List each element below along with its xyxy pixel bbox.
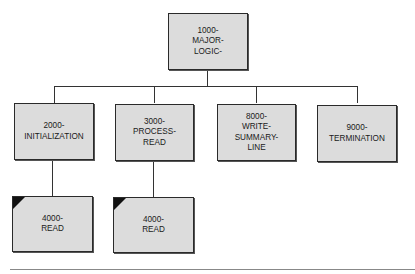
module-box-3000: 3000- PROCESS- READ bbox=[115, 104, 194, 161]
module-label: 8000- WRITE- SUMMARY- LINE bbox=[235, 112, 279, 154]
connector-2000-to-4000 bbox=[52, 160, 53, 196]
module-label: 4000- READ bbox=[41, 214, 64, 235]
module-label: 2000- INITIALIZATION bbox=[24, 121, 83, 142]
connector-to-2000 bbox=[54, 86, 55, 103]
connector-to-8000 bbox=[256, 86, 257, 103]
module-box-9000: 9000- TERMINATION bbox=[317, 105, 397, 162]
shaded-corner-marker-icon bbox=[13, 197, 25, 209]
bottom-rule bbox=[10, 269, 415, 270]
module-box-2000: 2000- INITIALIZATION bbox=[14, 103, 94, 160]
connector-to-3000 bbox=[154, 86, 155, 103]
module-box-1000: 1000- MAJOR- LOGIC- bbox=[168, 13, 248, 70]
shaded-corner-marker-icon bbox=[114, 198, 126, 210]
connector-3000-to-4000 bbox=[153, 160, 154, 197]
module-box-4000-under-3000: 4000- READ bbox=[113, 197, 194, 253]
connector-horizontal bbox=[54, 86, 358, 87]
module-box-8000: 8000- WRITE- SUMMARY- LINE bbox=[217, 104, 296, 161]
module-label: 3000- PROCESS- READ bbox=[133, 117, 176, 149]
module-label: 4000- READ bbox=[142, 215, 165, 236]
module-label: 1000- MAJOR- LOGIC- bbox=[192, 26, 223, 58]
connector-to-9000 bbox=[357, 86, 358, 103]
module-label: 9000- TERMINATION bbox=[329, 123, 385, 144]
module-box-4000-under-2000: 4000- READ bbox=[12, 196, 93, 252]
connector-root-down bbox=[207, 69, 208, 86]
